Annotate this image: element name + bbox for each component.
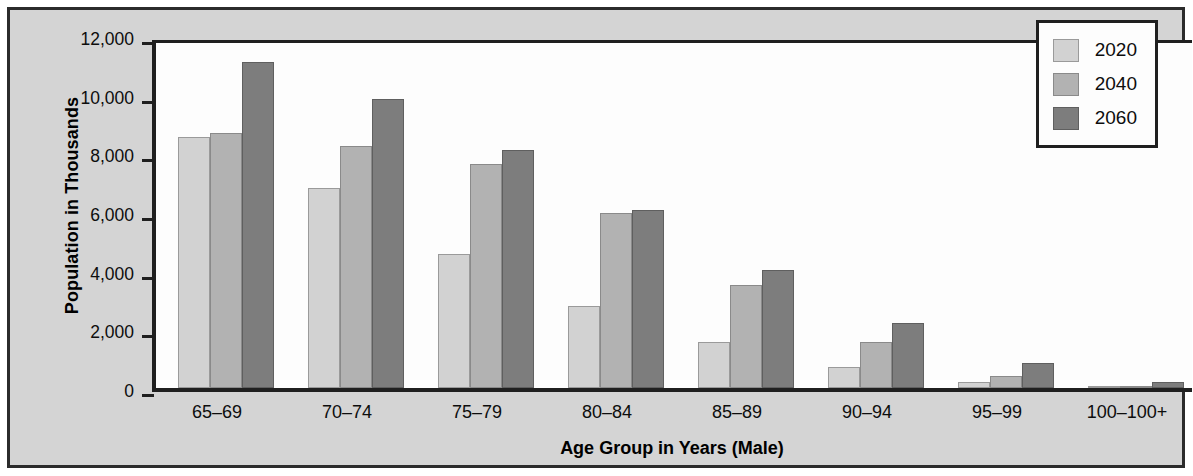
bar-2060-70–74 [372,99,404,388]
chart-legend: 202020402060 [1036,20,1158,148]
y-axis-tick-label: 6,000 [38,205,134,226]
y-axis-tick-mark [142,335,154,338]
bar-2020-100–100+ [1088,386,1120,388]
y-axis-tick-label: 10,000 [38,88,134,109]
y-axis-tick-mark [142,101,154,104]
y-axis-tick-mark [142,277,154,280]
legend-swatch-icon [1053,73,1079,96]
y-axis-tick-mark [142,42,154,45]
bar-2020-75–79 [438,254,470,388]
y-axis-tick-label: 8,000 [38,146,134,167]
x-axis-tick-label: 75–79 [412,402,542,423]
bar-2060-80–84 [632,210,664,388]
chart-frame: Population in Thousands 02,0004,0006,000… [7,7,1185,468]
legend-item-2020[interactable]: 2020 [1053,33,1137,67]
y-axis-tick-label: 12,000 [38,29,134,50]
bar-2020-80–84 [568,306,600,388]
legend-label: 2060 [1095,107,1137,129]
y-axis-tick-label: 0 [38,381,134,402]
chart-figure: Population in Thousands 02,0004,0006,000… [0,0,1193,476]
bar-2060-65–69 [242,62,274,388]
x-axis-tick-label: 85–89 [672,402,802,423]
bar-2040-70–74 [340,146,372,388]
bar-2020-90–94 [828,367,860,388]
bar-2060-100–100+ [1152,382,1184,388]
legend-swatch-icon [1053,107,1079,130]
x-axis-tick-label: 80–84 [542,402,672,423]
x-axis-tick-label: 95–99 [932,402,1062,423]
legend-item-2060[interactable]: 2060 [1053,101,1137,135]
y-axis-tick-labels: 02,0004,0006,0008,00010,00012,000 [38,40,134,392]
x-axis-tick-label: 65–69 [152,402,282,423]
legend-label: 2020 [1095,39,1137,61]
y-axis-tick-mark [142,159,154,162]
bar-2040-95–99 [990,376,1022,388]
x-axis-tick-label: 90–94 [802,402,932,423]
bar-2020-85–89 [698,342,730,388]
y-axis-tick-mark [142,218,154,221]
bar-2060-95–99 [1022,363,1054,388]
bar-2020-70–74 [308,188,340,388]
bar-2040-65–69 [210,133,242,388]
bar-2020-95–99 [958,382,990,388]
bar-2040-85–89 [730,285,762,388]
y-axis-tick-label: 4,000 [38,264,134,285]
x-axis-title: Age Group in Years (Male) [152,438,1192,459]
bar-2020-65–69 [178,137,210,388]
x-axis-tick-label: 100–100+ [1062,402,1192,423]
x-axis-tick-labels: 65–6970–7475–7980–8485–8990–9495–99100–1… [152,402,1192,432]
legend-label: 2040 [1095,73,1137,95]
bar-2040-90–94 [860,342,892,388]
bar-2040-80–84 [600,213,632,388]
y-axis-tick-mark [142,394,154,397]
bar-2060-85–89 [762,270,794,388]
x-axis-tick-label: 70–74 [282,402,412,423]
legend-item-2040[interactable]: 2040 [1053,67,1137,101]
legend-swatch-icon [1053,39,1079,62]
bar-2040-75–79 [470,164,502,388]
bar-2060-90–94 [892,323,924,388]
bar-2040-100–100+ [1120,386,1152,388]
bar-2060-75–79 [502,150,534,388]
y-axis-tick-label: 2,000 [38,322,134,343]
